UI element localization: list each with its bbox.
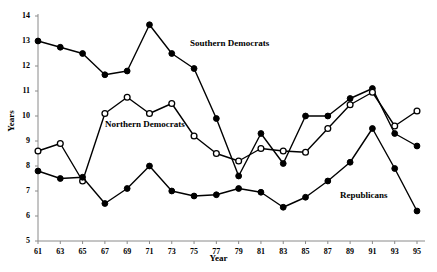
x-tick-label: 95 <box>405 247 429 256</box>
x-tick-label: 65 <box>71 247 95 256</box>
series-label: Northern Democrats <box>105 119 185 129</box>
x-tick-label: 79 <box>227 247 251 256</box>
y-tick-label: 8 <box>8 161 30 170</box>
line-chart: Years Year 567891011121314 6163656769717… <box>0 0 437 272</box>
x-tick-label: 89 <box>338 247 362 256</box>
y-tick-label: 14 <box>8 11 30 20</box>
y-tick-label: 9 <box>8 136 30 145</box>
x-tick-label: 71 <box>137 247 161 256</box>
y-tick-label: 5 <box>8 236 30 245</box>
x-tick-label: 83 <box>271 247 295 256</box>
x-tick-label: 67 <box>93 247 117 256</box>
x-tick-label: 77 <box>204 247 228 256</box>
x-tick-label: 91 <box>360 247 384 256</box>
x-tick-label: 81 <box>249 247 273 256</box>
y-tick-label: 7 <box>8 186 30 195</box>
series-label: Republicans <box>340 190 388 200</box>
y-tick-label: 6 <box>8 211 30 220</box>
x-tick-label: 61 <box>26 247 50 256</box>
y-tick-label: 13 <box>8 36 30 45</box>
x-tick-label: 85 <box>294 247 318 256</box>
series-label: Southern Democrats <box>190 38 269 48</box>
y-axis-label: Years <box>6 101 16 141</box>
y-tick-label: 11 <box>8 86 30 95</box>
x-tick-label: 63 <box>48 247 72 256</box>
x-tick-label: 87 <box>316 247 340 256</box>
y-tick-label: 12 <box>8 61 30 70</box>
y-tick-label: 10 <box>8 111 30 120</box>
x-tick-label: 73 <box>160 247 184 256</box>
x-tick-label: 93 <box>383 247 407 256</box>
x-tick-label: 75 <box>182 247 206 256</box>
x-tick-label: 69 <box>115 247 139 256</box>
